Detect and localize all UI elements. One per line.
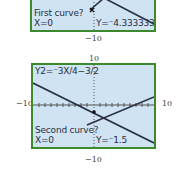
prompt-text: Second curve? (35, 126, 98, 135)
prompt-text: First curve? (34, 9, 83, 18)
ymin-label: −10 (85, 156, 102, 164)
y-value: Y=⁻1.5 (96, 136, 127, 145)
ymin-label: −10 (85, 35, 102, 43)
x-value: X=0 (34, 19, 53, 28)
x-value: X=0 (35, 136, 54, 145)
graph-screen-first-curve: First curve? X=0 Y=⁻4.333333 (30, 0, 156, 32)
ymax-label: 10 (89, 55, 99, 63)
graph-screen-second-curve: Y2=⁻3X/4−3/2 Second curve? X=0 Y=⁻1.5 (31, 63, 156, 149)
equation-text: Y2=⁻3X/4−3/2 (35, 67, 99, 76)
xmax-label: 10 (162, 100, 172, 108)
y-value: Y=⁻4.333333 (96, 19, 155, 28)
